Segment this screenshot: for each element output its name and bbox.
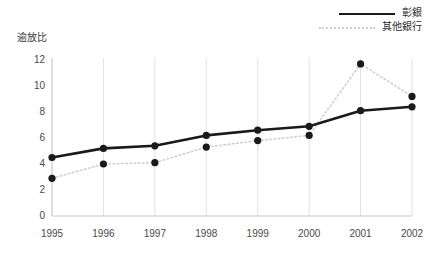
line-其他銀行 — [52, 64, 412, 178]
axis-lines — [52, 58, 412, 216]
datapoint-其他銀行-1999 — [254, 137, 261, 144]
plot-svg — [0, 0, 428, 253]
y-tick-6: 6 — [19, 133, 45, 143]
y-tick-2: 2 — [19, 185, 45, 195]
datapoint-彰銀-1997 — [151, 142, 158, 149]
datapoint-彰銀-1995 — [48, 154, 55, 161]
chart-container: 彰銀 其他銀行 逾放比 024681012 199519961997199819… — [0, 0, 428, 253]
datapoint-其他銀行-1997 — [151, 159, 158, 166]
datapoint-其他銀行-1996 — [100, 160, 107, 167]
x-tick-1995: 1995 — [30, 229, 74, 239]
datapoint-其他銀行-2000 — [306, 132, 313, 139]
x-tick-1997: 1997 — [133, 229, 177, 239]
y-tick-8: 8 — [19, 107, 45, 117]
datapoint-彰銀-1996 — [100, 145, 107, 152]
datapoint-彰銀-2001 — [357, 107, 364, 114]
x-tick-1998: 1998 — [184, 229, 228, 239]
series-secondary-line — [52, 64, 412, 178]
datapoint-其他銀行-1998 — [203, 144, 210, 151]
x-tick-2002: 2002 — [390, 229, 428, 239]
datapoint-彰銀-2002 — [408, 103, 415, 110]
y-tick-4: 4 — [19, 159, 45, 169]
y-tick-10: 10 — [19, 81, 45, 91]
datapoint-其他銀行-2001 — [357, 60, 364, 67]
datapoint-彰銀-1999 — [254, 127, 261, 134]
gridlines-vertical — [52, 58, 412, 216]
x-tick-1999: 1999 — [236, 229, 280, 239]
datapoint-其他銀行-1995 — [48, 175, 55, 182]
datapoint-彰銀-2000 — [306, 123, 313, 130]
datapoint-彰銀-1998 — [203, 132, 210, 139]
x-tick-2000: 2000 — [287, 229, 331, 239]
y-tick-0: 0 — [19, 211, 45, 221]
x-tick-2001: 2001 — [339, 229, 383, 239]
plot-area: 024681012 199519961997199819992000200120… — [0, 0, 428, 253]
y-tick-12: 12 — [19, 55, 45, 65]
x-tick-1996: 1996 — [81, 229, 125, 239]
datapoint-其他銀行-2002 — [408, 93, 415, 100]
